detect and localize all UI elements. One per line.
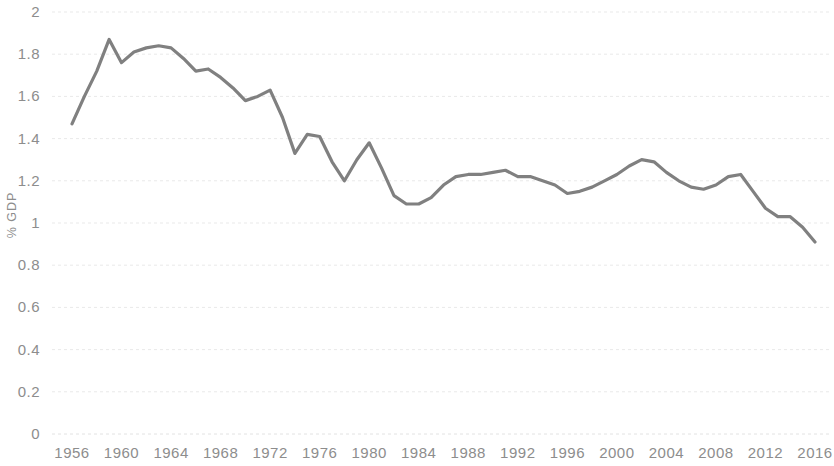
y-axis-tick-label: 0.6	[18, 298, 40, 315]
x-axis-tick-label: 2000	[599, 444, 634, 461]
y-axis-tick-label: 1.6	[18, 87, 40, 104]
x-axis-tick-label: 1980	[352, 444, 387, 461]
x-axis-tick-label: 1964	[153, 444, 188, 461]
x-axis-tick-label: 1992	[500, 444, 535, 461]
x-axis-tick-label: 2008	[698, 444, 733, 461]
y-axis-title-label: % GDP	[5, 192, 19, 239]
gridlines	[52, 12, 831, 434]
y-axis-tick-label: 1.8	[18, 45, 40, 62]
y-axis-tick-label: 1.4	[18, 130, 40, 147]
y-axis-tick-label: 2	[31, 3, 40, 20]
chart-container: 00.20.40.60.811.21.41.61.82 195619601964…	[0, 0, 834, 466]
y-axis-tick-label: 0.8	[18, 256, 40, 273]
y-axis-tick-label: 1.2	[18, 172, 40, 189]
x-axis-tick-label: 1984	[401, 444, 436, 461]
x-axis-tick-label: 1960	[104, 444, 139, 461]
x-axis-tick-label: 1972	[252, 444, 287, 461]
y-axis-tick-labels: 00.20.40.60.811.21.41.61.82	[18, 3, 40, 442]
x-axis-tick-labels: 1956196019641968197219761980198419881992…	[54, 444, 832, 461]
line-chart: 00.20.40.60.811.21.41.61.82 195619601964…	[0, 0, 834, 466]
y-axis-tick-label: 0.4	[18, 341, 40, 358]
y-axis-title: % GDP	[5, 192, 19, 239]
data-series-line	[72, 39, 815, 242]
x-axis-tick-label: 1956	[54, 444, 89, 461]
x-axis-tick-label: 1996	[550, 444, 585, 461]
x-axis-tick-label: 1988	[451, 444, 486, 461]
x-axis-tick-label: 1968	[203, 444, 238, 461]
y-axis-tick-label: 0	[31, 425, 40, 442]
y-axis-tick-label: 0.2	[18, 383, 40, 400]
y-axis-tick-label: 1	[31, 214, 40, 231]
x-axis-tick-label: 2016	[797, 444, 832, 461]
x-axis-tick-label: 2012	[748, 444, 783, 461]
x-axis-tick-label: 1976	[302, 444, 337, 461]
x-axis-tick-label: 2004	[649, 444, 684, 461]
